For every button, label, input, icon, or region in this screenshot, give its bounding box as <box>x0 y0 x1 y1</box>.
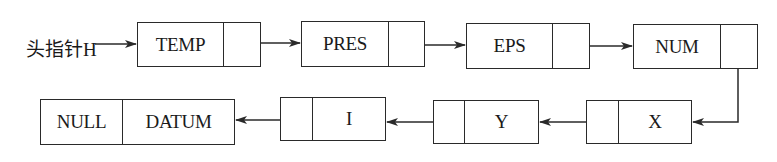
arrow-num-to-x <box>693 69 738 122</box>
arrows-layer <box>0 0 777 162</box>
